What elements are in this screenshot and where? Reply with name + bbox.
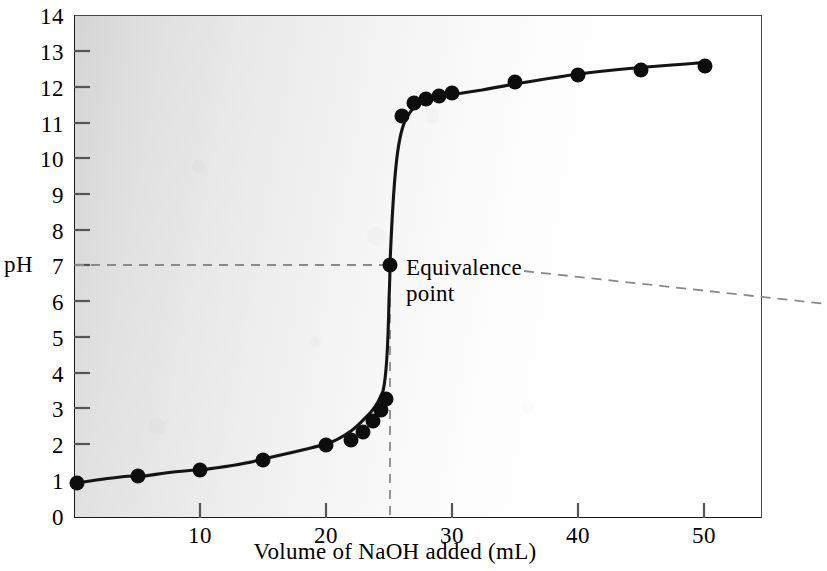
y-tick-label-8: 8: [30, 220, 64, 243]
y-tick-label-5: 5: [30, 327, 64, 350]
x-axis-title: Volume of NaOH added (mL): [0, 539, 790, 564]
y-tick-label-6: 6: [30, 291, 64, 314]
equivalence-point-annotation: Equivalence point: [406, 255, 522, 307]
y-tick-label-14: 14: [30, 5, 64, 28]
y-tick-label-11: 11: [30, 113, 64, 136]
titration-curve-figure: 14 13 12 11 10 9 8 7 6 5 4 3 2 1 0 pH 10…: [0, 0, 827, 571]
y-tick-label-0: 0: [30, 506, 64, 529]
y-axis-title: pH: [4, 253, 33, 276]
y-tick-label-9: 9: [30, 184, 64, 207]
y-tick-label-2: 2: [30, 434, 64, 457]
y-tick-label-4: 4: [30, 363, 64, 386]
y-tick-label-1: 1: [30, 470, 64, 493]
y-tick-label-7: 7: [30, 255, 64, 278]
y-tick-label-12: 12: [30, 77, 64, 100]
y-tick-label-10: 10: [30, 148, 64, 171]
y-tick-label-13: 13: [30, 41, 64, 64]
y-tick-label-3: 3: [30, 398, 64, 421]
